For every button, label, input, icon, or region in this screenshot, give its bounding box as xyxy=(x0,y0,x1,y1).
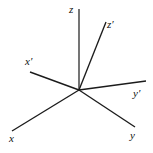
axis-label-y-prime: y′ xyxy=(133,88,140,99)
axis-label-y: y xyxy=(130,130,135,141)
axis-label-x: x xyxy=(9,133,14,144)
axis-label-z: z xyxy=(69,4,73,15)
axis-label-z-prime: z′ xyxy=(107,19,114,30)
axis-label-x-prime: x′ xyxy=(25,56,32,67)
coordinate-axes-diagram: z z′ x′ y′ x y xyxy=(0,0,153,153)
